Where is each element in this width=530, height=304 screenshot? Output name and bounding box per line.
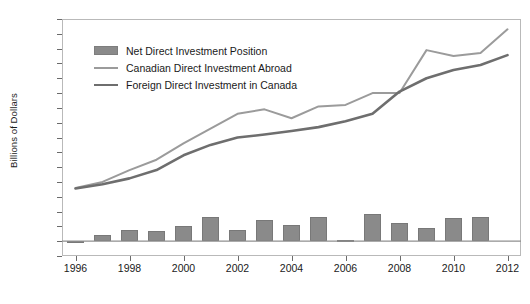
x-tick-label: 2008 bbox=[388, 262, 411, 274]
legend-bar-swatch-icon bbox=[94, 46, 118, 55]
x-tick-label: 1996 bbox=[64, 262, 87, 274]
y-axis-title: Billions of Dollars bbox=[2, 0, 24, 260]
legend-item: Net Direct Investment Position bbox=[94, 42, 297, 59]
x-tick-mark bbox=[454, 256, 455, 261]
x-tick-label: 2012 bbox=[496, 262, 519, 274]
x-tick-mark bbox=[130, 256, 131, 261]
x-tick-mark bbox=[508, 256, 509, 261]
x-tick-label: 2010 bbox=[442, 262, 465, 274]
y-tick-mark bbox=[57, 256, 62, 257]
legend-item: Canadian Direct Investment Abroad bbox=[94, 59, 297, 76]
y-axis-title-text: Billions of Dollars bbox=[8, 93, 19, 168]
legend: Net Direct Investment PositionCanadian D… bbox=[94, 42, 297, 93]
legend-item-label: Foreign Direct Investment in Canada bbox=[126, 79, 297, 91]
x-tick-label: 1998 bbox=[118, 262, 141, 274]
x-tick-mark bbox=[400, 256, 401, 261]
x-tick-mark bbox=[76, 256, 77, 261]
legend-item-label: Canadian Direct Investment Abroad bbox=[126, 62, 292, 74]
legend-item: Foreign Direct Investment in Canada bbox=[94, 76, 297, 93]
x-tick-label: 2004 bbox=[280, 262, 303, 274]
x-tick-mark bbox=[238, 256, 239, 261]
plot-area: –500501001502002503003504004505005506006… bbox=[62, 19, 521, 256]
x-tick-mark bbox=[184, 256, 185, 261]
x-tick-label: 2000 bbox=[172, 262, 195, 274]
x-tick-mark bbox=[346, 256, 347, 261]
investment-position-chart: Billions of Dollars –5005010015020025030… bbox=[0, 0, 530, 304]
x-tick-label: 2006 bbox=[334, 262, 357, 274]
x-tick-mark bbox=[292, 256, 293, 261]
x-tick-label: 2002 bbox=[226, 262, 249, 274]
legend-item-label: Net Direct Investment Position bbox=[126, 45, 267, 57]
